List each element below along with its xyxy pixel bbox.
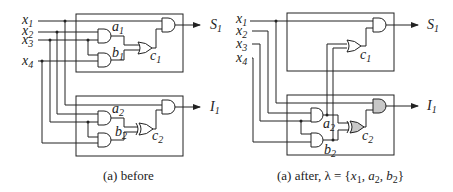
output-s1-label: S1 [210,17,222,34]
label-c1: c1 [150,48,161,65]
and-gate-b1 [98,53,111,67]
label-c1: c1 [360,47,371,64]
panel-before: x1 x2 x3 x4 [21,12,222,183]
and-gate-a2 [98,111,111,125]
label-b1: b1 [112,45,124,62]
label-c2: c2 [362,128,373,145]
and-gate-b2 [98,133,111,147]
panel-after: x1 x2 x3 x4 [235,11,439,185]
circuit-diagram: x1 x2 x3 x4 [0,0,453,192]
xor-gate-c2 [139,123,153,135]
label-b2: b2 [324,142,336,159]
and-gate-a2 [311,108,323,122]
label-a2: a2 [112,101,124,118]
output-i1-label: I1 [209,99,220,116]
input-x4-label: x4 [21,53,33,70]
output-s1-label: S1 [427,17,439,34]
and-gate-s1 [373,18,386,32]
and-gate-i1-highlighted [373,99,386,113]
label-c2: c2 [152,128,163,145]
caption-after: (a) after, λ = {x1, a2, b2} [277,168,404,185]
and-gate-a1 [98,29,111,43]
and-gate-b2 [311,133,323,147]
caption-before: (a) before [103,168,154,183]
and-gate-i1 [162,100,175,114]
and-gate-s1 [162,18,175,32]
or-gate-c1 [347,40,361,52]
label-a1: a1 [112,19,124,36]
output-i1-label: I1 [426,98,437,115]
